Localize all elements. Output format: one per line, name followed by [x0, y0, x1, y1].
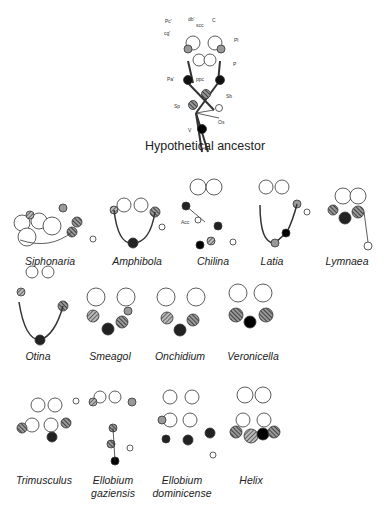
taxon-label: Otina	[25, 350, 50, 362]
taxon-label: Amphibola	[112, 255, 162, 267]
taxon-label: Helix	[239, 474, 262, 486]
taxon-label: Ellobium	[162, 474, 202, 486]
ellobium-gaziensis-diagram	[89, 391, 136, 465]
smeagol-diagram	[87, 288, 135, 335]
taxon-label: Ellobium	[93, 474, 133, 486]
label-v: V	[188, 127, 191, 133]
latia-diagram	[259, 180, 310, 247]
ancestor-title: Hypothetical ancestor	[145, 139, 265, 153]
taxon-label: Smeagol	[89, 350, 130, 362]
label-sb: Sb	[226, 93, 232, 99]
taxon-label: Latia	[261, 255, 284, 267]
label-scc: scc	[196, 22, 204, 28]
label-ppc: ppc	[196, 76, 204, 82]
taxon-label: Trimusculus	[16, 474, 72, 486]
trimusculus-diagram	[17, 398, 79, 442]
label-sp: Sp	[174, 103, 180, 109]
label-p: P	[233, 61, 236, 67]
label-os: Os	[218, 119, 224, 125]
chilina-diagram	[182, 179, 236, 249]
label-c: C	[212, 17, 216, 23]
taxon-label: Lymnaea	[325, 255, 368, 267]
siphonaria-diagram	[14, 204, 96, 246]
amphibola-diagram	[110, 198, 165, 248]
label-cg: cg'	[164, 30, 170, 36]
veronicella-diagram	[229, 284, 273, 328]
helix-diagram	[230, 387, 280, 443]
ellobium-dominicense-diagram	[158, 390, 216, 458]
label-pc: Pc'	[165, 18, 172, 24]
label-pl: Pl	[234, 37, 238, 43]
taxon-label: Siphonaria	[25, 255, 75, 267]
label-pa: Pa'	[167, 76, 174, 82]
label-acc: Acc	[181, 219, 189, 225]
taxon-label: Onchidium	[155, 350, 205, 362]
taxon-label-line2: dominicense	[153, 487, 212, 499]
label-db: db'	[188, 16, 195, 22]
taxon-label: Chilina	[197, 255, 229, 267]
onchidium-diagram	[157, 288, 205, 336]
otina-diagram	[17, 266, 68, 345]
ancestor-diagram	[184, 36, 226, 152]
taxon-label: Veronicella	[227, 350, 279, 362]
taxon-label-line2: gaziensis	[91, 487, 135, 499]
lymnaea-diagram	[328, 188, 372, 250]
